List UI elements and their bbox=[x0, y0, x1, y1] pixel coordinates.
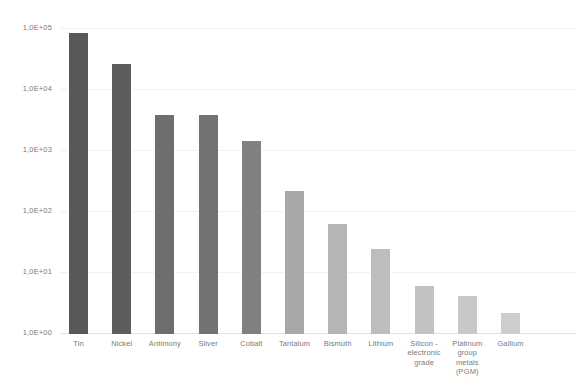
x-tick-label-line: group bbox=[436, 348, 498, 357]
bar-chart: 1,0E+051,0E+041,0E+031,0E+021,0E+011,0E+… bbox=[0, 0, 581, 391]
x-tick-label: Gallium bbox=[480, 339, 542, 348]
x-tick-label-line: metals bbox=[436, 358, 498, 367]
bar bbox=[112, 64, 131, 334]
bar bbox=[242, 141, 261, 334]
x-tick-label-line: Gallium bbox=[480, 339, 542, 348]
bar bbox=[371, 249, 390, 334]
bar bbox=[199, 115, 218, 334]
bar bbox=[415, 286, 434, 334]
x-tick-label-line: (PGM) bbox=[436, 367, 498, 376]
bar-series bbox=[0, 0, 581, 391]
bar bbox=[155, 115, 174, 334]
bar bbox=[328, 224, 347, 334]
bar bbox=[501, 313, 520, 334]
bar bbox=[69, 33, 88, 334]
bar bbox=[458, 296, 477, 334]
bar bbox=[285, 191, 304, 334]
